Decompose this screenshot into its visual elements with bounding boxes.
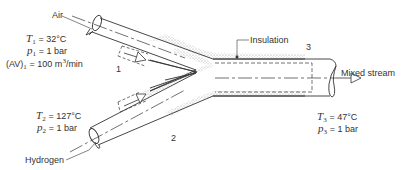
inlet2-pressure: p2 = 1 bar [37,122,77,137]
inlet1-volumetric-flow: (AV)1 = 100 m3/min [6,56,83,73]
state-1-label: 1 [116,64,121,74]
mixing-chamber-diagram [0,0,407,170]
mixed-stream-label: Mixed stream [341,68,395,78]
hydrogen-inlet-pipe [70,73,305,152]
state-2-label: 2 [171,133,176,143]
insulation-layer [142,34,305,116]
air-label: Air [52,10,63,20]
outlet3-pressure: p3 = 1 bar [318,123,358,138]
hydrogen-label: Hydrogen [25,155,64,165]
state-3-label: 3 [306,42,311,52]
insulation-label: Insulation [250,35,289,45]
air-inlet-pipe [72,14,305,91]
